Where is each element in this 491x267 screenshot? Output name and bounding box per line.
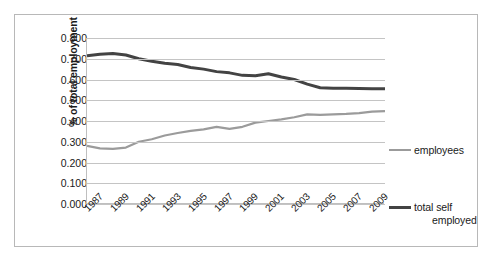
gridline xyxy=(87,121,385,122)
legend-label-line2: employed xyxy=(414,214,477,227)
y-tick-label: 0.800 xyxy=(43,33,87,44)
y-tick-label: 0.600 xyxy=(43,75,87,86)
y-tick-label: 0.500 xyxy=(43,95,87,106)
y-tick-label: 0.700 xyxy=(43,54,87,65)
y-tick-label: 0.300 xyxy=(43,137,87,148)
gridline xyxy=(87,80,385,81)
legend-swatch xyxy=(389,149,411,151)
legend-label: total selfemployed xyxy=(414,201,477,226)
legend-item[interactable]: total selfemployed xyxy=(389,201,477,226)
gridline xyxy=(87,100,385,101)
chart-container: % of total employment 0.8000.7000.6000.5… xyxy=(14,14,478,247)
y-tick-label: 0.400 xyxy=(43,116,87,127)
y-tick-label: 0.200 xyxy=(43,158,87,169)
legend-item[interactable]: employees xyxy=(389,144,464,157)
legend-label: employees xyxy=(414,144,464,157)
plot-area xyxy=(86,38,384,204)
gridline xyxy=(87,163,385,164)
y-axis-tick-labels: 0.8000.7000.6000.5000.4000.3000.2000.100… xyxy=(43,38,87,204)
gridline xyxy=(87,59,385,60)
series-line-employees xyxy=(87,111,385,149)
legend-swatch xyxy=(389,206,411,209)
y-tick-label: 0.100 xyxy=(43,178,87,189)
y-tick-label: 0.000 xyxy=(43,199,87,210)
gridline xyxy=(87,183,385,184)
gridline xyxy=(87,142,385,143)
gridline xyxy=(87,38,385,39)
x-axis-tick-labels: 1987198919911993199519971999200120032005… xyxy=(86,206,406,252)
